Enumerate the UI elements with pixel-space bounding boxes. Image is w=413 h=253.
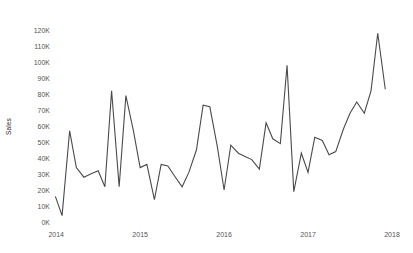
series-line-sales <box>55 33 385 215</box>
sales-line-chart: Sales 0K10K20K30K40K50K60K70K80K90K100K1… <box>0 0 413 253</box>
plot-area <box>0 0 413 253</box>
